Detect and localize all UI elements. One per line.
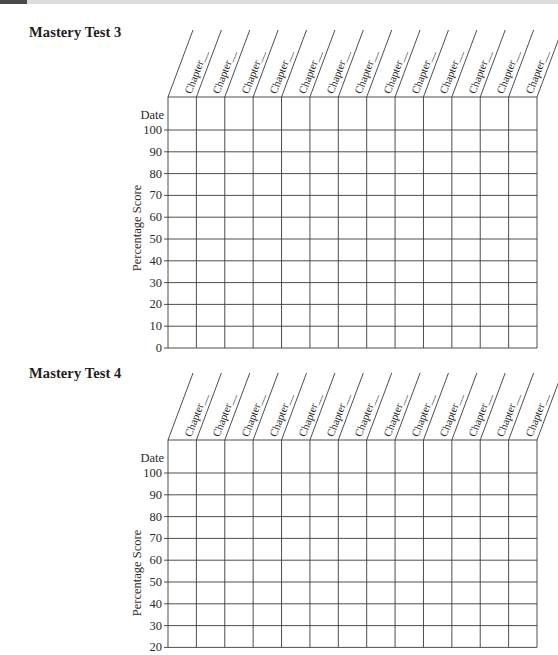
y-tick-label: 80 <box>120 510 162 524</box>
grid-lines <box>0 0 558 655</box>
y-tick-label: 30 <box>120 619 162 633</box>
y-tick-label: 90 <box>120 488 162 502</box>
y-axis-label: Percentage Score <box>130 530 145 616</box>
y-tick-label: 100 <box>120 466 162 480</box>
date-row-label: Date <box>122 451 164 465</box>
y-tick-label: 20 <box>120 640 162 654</box>
